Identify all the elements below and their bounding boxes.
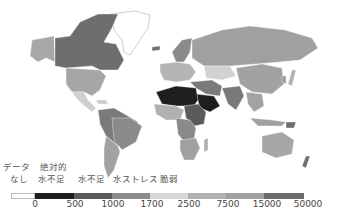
region-madagascar — [204, 138, 208, 152]
region-europe — [160, 62, 196, 82]
legend-ticks: 0 500 1000 1700 2500 7500 15000 50000 — [0, 199, 339, 210]
region-canada — [55, 14, 124, 70]
region-north-africa — [156, 86, 198, 106]
legend-labels: データ なし 絶対的 水不足 水不足 水ストレス 脆弱 — [0, 162, 339, 192]
region-australia — [262, 132, 294, 158]
region-west-africa — [154, 104, 184, 120]
legend-label-stress: 水ストレス — [113, 174, 158, 184]
region-southern-africa — [180, 138, 200, 160]
world-map — [0, 0, 339, 180]
tick-50000: 50000 — [294, 199, 323, 210]
legend-label-absolute-line1: 絶対的 — [40, 162, 67, 172]
region-png — [286, 122, 296, 128]
region-southeast-asia — [246, 92, 264, 112]
tick-1700: 1700 — [141, 199, 164, 210]
region-iceland — [152, 46, 160, 51]
region-scandinavia — [172, 38, 192, 62]
legend-label-vulnerable: 脆弱 — [160, 174, 178, 184]
tick-7500: 7500 — [217, 199, 240, 210]
tick-500: 500 — [66, 199, 83, 210]
region-india — [222, 86, 244, 110]
legend-label-no-data-line2: なし — [10, 174, 28, 184]
region-central-asia — [204, 66, 236, 80]
region-japan — [288, 70, 296, 86]
tick-1000: 1000 — [102, 199, 125, 210]
tick-15000: 15000 — [253, 199, 282, 210]
legend-label-scarcity: 水不足 — [78, 174, 105, 184]
tick-2500: 2500 — [178, 199, 201, 210]
legend-label-no-data-line1: データ — [3, 162, 30, 172]
region-indonesia — [250, 118, 286, 126]
region-russia — [192, 26, 318, 66]
tick-0: 0 — [32, 199, 38, 210]
region-caribbean — [96, 100, 108, 104]
legend-label-absolute-line2: 水不足 — [38, 174, 65, 184]
region-china — [236, 64, 284, 94]
region-alaska — [30, 36, 55, 62]
